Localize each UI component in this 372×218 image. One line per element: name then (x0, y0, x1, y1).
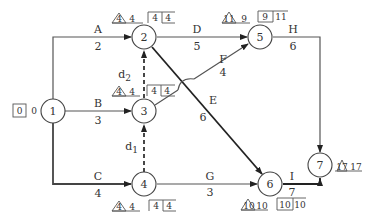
node-4: 4 (132, 172, 156, 196)
dummy-d1: d1 (125, 125, 144, 172)
svg-text:5: 5 (257, 31, 264, 44)
svg-text:4: 4 (116, 14, 122, 24)
activity-A-duration: 2 (95, 40, 102, 53)
node-5: 5 (248, 25, 272, 49)
svg-text:4: 4 (129, 202, 135, 212)
activity-E: E 6 (152, 47, 262, 174)
svg-text:0: 0 (31, 106, 37, 116)
svg-text:4: 4 (141, 178, 148, 191)
node-2-times: 4 4 4 4 (112, 12, 175, 24)
node-4-times: 4 4 4 4 (112, 200, 176, 212)
activity-H: H 6 (273, 23, 320, 152)
activity-I-duration: 7 (289, 186, 296, 199)
activity-F-name: F (219, 53, 227, 66)
svg-text:0: 0 (17, 106, 23, 116)
activity-F-duration: 4 (220, 66, 227, 79)
svg-text:4: 4 (165, 13, 171, 23)
activity-C: C 4 (53, 123, 131, 200)
node-1-times: 0 0 (13, 104, 37, 117)
activity-C-name: C (94, 170, 102, 183)
dummy-d1-name: d1 (125, 140, 138, 155)
svg-text:10: 10 (256, 201, 268, 211)
activity-H-name: H (288, 23, 298, 36)
svg-text:1: 1 (50, 105, 57, 118)
activity-D: D 5 (157, 23, 247, 53)
activity-G-duration: 3 (207, 186, 214, 199)
dummy-d2-name: d2 (118, 68, 131, 83)
svg-text:3: 3 (141, 105, 148, 118)
svg-text:7: 7 (317, 159, 324, 172)
activity-E-name: E (209, 94, 217, 107)
network-diagram: A 2 B 3 C 4 D 5 E 6 F 4 G 3 H 6 (0, 0, 372, 218)
activity-G-name: G (206, 170, 215, 183)
svg-text:4: 4 (153, 201, 159, 211)
svg-text:6: 6 (267, 178, 274, 191)
svg-text:17: 17 (336, 162, 348, 172)
svg-text:10: 10 (243, 201, 255, 211)
svg-text:4: 4 (116, 87, 122, 97)
activity-I-name: I (290, 170, 294, 183)
activity-E-duration: 6 (200, 111, 207, 124)
svg-text:4: 4 (152, 13, 158, 23)
activity-H-duration: 6 (290, 40, 297, 53)
activity-B-name: B (94, 97, 102, 110)
activity-C-duration: 4 (95, 187, 102, 200)
svg-text:17: 17 (350, 162, 362, 172)
svg-text:2: 2 (141, 31, 148, 44)
activity-D-duration: 5 (194, 40, 201, 53)
svg-text:4: 4 (129, 87, 135, 97)
svg-text:9: 9 (241, 14, 247, 24)
svg-text:9: 9 (262, 12, 268, 22)
svg-text:11: 11 (223, 14, 234, 24)
svg-text:4: 4 (151, 86, 157, 96)
node-7-times: 17 17 (335, 160, 362, 172)
node-7: 7 (308, 153, 332, 177)
node-2: 2 (132, 25, 156, 49)
svg-text:4: 4 (166, 201, 172, 211)
svg-text:4: 4 (164, 86, 170, 96)
svg-text:4: 4 (116, 202, 122, 212)
svg-text:10: 10 (279, 200, 291, 210)
node-6-times: 10 10 10 10 (241, 198, 306, 211)
activity-B-duration: 3 (95, 114, 102, 127)
activity-A-name: A (93, 23, 103, 36)
activity-G: G 3 (157, 170, 257, 199)
svg-text:10: 10 (294, 200, 306, 210)
node-6: 6 (258, 172, 282, 196)
svg-text:11: 11 (275, 12, 286, 22)
activity-D-name: D (193, 23, 202, 36)
node-3: 3 (132, 99, 156, 123)
node-5-times: 11 9 9 11 (222, 11, 288, 24)
node-1: 1 (41, 99, 65, 123)
svg-text:4: 4 (129, 14, 135, 24)
